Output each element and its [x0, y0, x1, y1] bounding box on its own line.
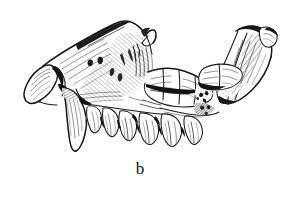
figure-panel: b	[0, 0, 292, 222]
figure-caption-label: b	[136, 159, 145, 178]
skull-illustration: b	[0, 0, 292, 222]
